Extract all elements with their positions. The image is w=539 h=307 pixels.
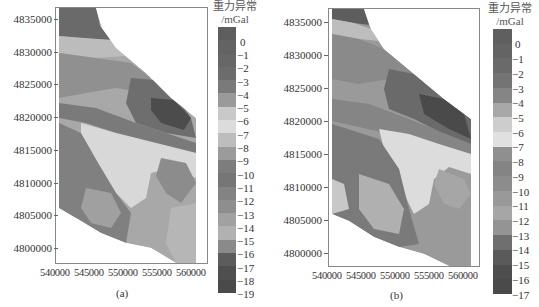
colorbar-title: 重力异常 /mGal	[481, 2, 539, 28]
colorbar-swatch	[493, 176, 512, 191]
colorbar-swatch	[493, 235, 512, 250]
colorbar-swatch	[493, 44, 512, 59]
y-tick-label: 4810000	[270, 181, 322, 193]
colorbar-swatch	[493, 147, 512, 162]
colorbar-swatch	[493, 88, 512, 103]
x-tick-label: 550000	[380, 270, 410, 282]
colorbar-tick-label: −8	[512, 156, 524, 168]
y-tick-label: 4825000	[270, 82, 322, 94]
panel-b: 4835000 4830000 4825000 4820000 4815000 …	[0, 0, 539, 307]
colorbar-tick-label: −7	[512, 141, 524, 153]
y-tick-label: 4805000	[270, 214, 322, 226]
colorbar	[493, 29, 512, 294]
colorbar-swatch	[493, 220, 512, 235]
colorbar-unit: /mGal	[481, 15, 539, 28]
y-tick-label: 4835000	[270, 16, 322, 28]
colorbar-tick-label: −3	[512, 83, 524, 95]
colorbar-tick-label: −13	[512, 230, 529, 242]
x-tick-label: 545000	[346, 270, 376, 282]
colorbar-tick-label: 0	[515, 38, 521, 50]
colorbar-tick-label: −16	[512, 274, 529, 286]
colorbar-title-text: 重力异常	[481, 2, 539, 15]
colorbar-swatch	[493, 29, 512, 44]
x-tick-label: 555000	[414, 270, 444, 282]
colorbar-tick-label: −14	[512, 244, 529, 256]
colorbar-tick-label: −1	[512, 53, 524, 65]
colorbar-tick-label: −10	[512, 186, 529, 198]
y-tick-label: 4815000	[270, 148, 322, 160]
colorbar-tick-label: −4	[512, 97, 524, 109]
colorbar-tick-label: −6	[512, 127, 524, 139]
colorbar-swatch	[493, 73, 512, 88]
colorbar-tick-label: −5	[512, 112, 524, 124]
colorbar-tick-label: −17	[512, 289, 529, 301]
colorbar-swatch	[493, 250, 512, 265]
colorbar-swatch	[493, 206, 512, 221]
colorbar-swatch	[493, 265, 512, 280]
y-tick-label: 4830000	[270, 49, 322, 61]
contour-map-b	[329, 9, 479, 266]
colorbar-swatch	[493, 161, 512, 176]
x-tick-label: 560000	[448, 270, 478, 282]
colorbar-tick-label: −15	[512, 259, 529, 271]
y-tick-label: 4800000	[270, 247, 322, 259]
colorbar-tick-label: −2	[512, 68, 524, 80]
colorbar-tick-label: −11	[512, 200, 529, 212]
x-tick-label: 540000	[312, 270, 342, 282]
panel-caption: (b)	[390, 289, 403, 301]
y-tick-label: 4820000	[270, 115, 322, 127]
colorbar-swatch	[493, 191, 512, 206]
colorbar-swatch	[493, 58, 512, 73]
colorbar-swatch	[493, 279, 512, 294]
colorbar-swatch	[493, 117, 512, 132]
colorbar-swatch	[493, 103, 512, 118]
colorbar-tick-label: −9	[512, 171, 524, 183]
map-frame-b	[328, 8, 480, 267]
colorbar-swatch	[493, 132, 512, 147]
colorbar-tick-label: −12	[512, 215, 529, 227]
